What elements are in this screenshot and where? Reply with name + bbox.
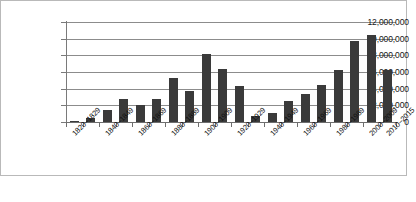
bar [70, 121, 79, 122]
bar-series [66, 22, 396, 122]
x-tick-mark [264, 123, 265, 127]
x-axis-labels: 1820–18291840–18491860–18691880–18891900… [0, 128, 409, 202]
bar [103, 110, 112, 122]
bar [268, 113, 277, 122]
x-tick-mark [66, 123, 67, 127]
x-tick-mark [198, 123, 199, 127]
bar [202, 54, 211, 122]
bar [136, 105, 145, 122]
x-tick-mark [132, 123, 133, 127]
x-tick-mark [297, 123, 298, 127]
x-tick-mark [363, 123, 364, 127]
bar [235, 86, 244, 122]
bar [169, 78, 178, 122]
bar [334, 70, 343, 122]
x-tick-mark [99, 123, 100, 127]
x-tick-mark [165, 123, 166, 127]
x-tick-mark [231, 123, 232, 127]
bar [301, 94, 310, 122]
bar [367, 35, 376, 122]
x-tick-mark [330, 123, 331, 127]
